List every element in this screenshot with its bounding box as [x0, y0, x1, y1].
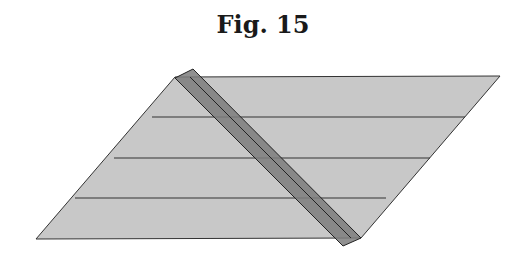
diagram-canvas	[0, 0, 526, 262]
